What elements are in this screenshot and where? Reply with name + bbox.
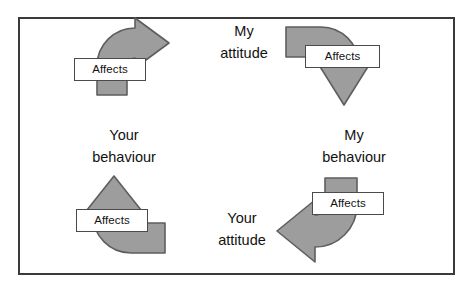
- node-label-line-1: Your: [68, 124, 180, 146]
- curved-arrow-up-right-icon: [97, 18, 169, 95]
- node-label-line-2: behaviour: [68, 146, 180, 168]
- diagram-root: Affects Affects Affects Affects My attit…: [0, 0, 473, 288]
- node-label-line-2: behaviour: [300, 146, 408, 168]
- node-label-line-1: My: [300, 124, 408, 146]
- affects-label-top-right: Affects: [305, 45, 380, 68]
- node-label-your-attitude: Your attitude: [192, 207, 292, 251]
- node-label-line-1: My: [196, 20, 292, 42]
- affects-label-bottom-left: Affects: [76, 209, 148, 232]
- node-label-line-2: attitude: [192, 229, 292, 251]
- node-label-line-2: attitude: [196, 42, 292, 64]
- affects-label-bottom-right: Affects: [312, 192, 384, 215]
- node-label-line-1: Your: [192, 207, 292, 229]
- node-label-my-attitude: My attitude: [196, 20, 292, 64]
- affects-label-top-left: Affects: [74, 58, 146, 81]
- node-label-my-behaviour: My behaviour: [300, 124, 408, 168]
- node-label-your-behaviour: Your behaviour: [68, 124, 180, 168]
